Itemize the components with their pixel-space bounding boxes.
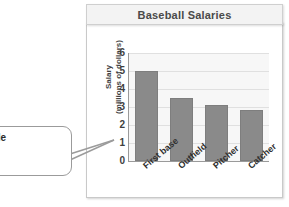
page-title: Baseball Salaries [138,9,232,21]
y-tick-label: 5 [119,66,125,76]
x-axis-labels: First baseOutfieldPitcherCatcher [128,163,268,203]
callout-pointer [68,138,116,166]
y-tick-label: 1 [119,138,125,148]
y-tick-label: 6 [119,48,125,58]
callout-box: propriate scale e data is 0 to ion. [0,126,72,176]
y-tick-label: 3 [119,102,125,112]
bar [135,71,158,161]
y-tick-label: 2 [119,120,125,130]
chart-title-bar: Baseball Salaries [86,4,283,25]
chart-card: Salary (millions of dollars) 6543210 Fir… [86,22,283,198]
callout-line: e data is 0 to [0,145,63,158]
y-tick-label: 0 [119,156,125,166]
y-tick-label: 4 [119,84,125,94]
callout-line: propriate scale [0,132,63,145]
callout-line: ion. [0,157,63,170]
